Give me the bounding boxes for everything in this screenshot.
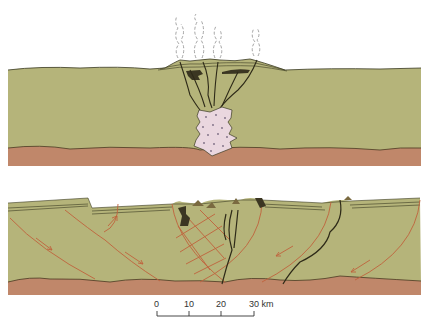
geological-diagram: 0 10 20 30 km (0, 0, 435, 329)
scale-tick-30: 30 km (249, 299, 274, 309)
scale-bar: 0 10 20 30 km (154, 299, 274, 316)
scale-tick-20: 20 (216, 299, 226, 309)
upper-panel (8, 14, 421, 166)
lower-crust (8, 198, 421, 285)
steam-plumes (176, 14, 260, 58)
scale-tick-10: 10 (184, 299, 194, 309)
scale-tick-0: 0 (154, 299, 159, 309)
lower-panel (8, 196, 421, 295)
